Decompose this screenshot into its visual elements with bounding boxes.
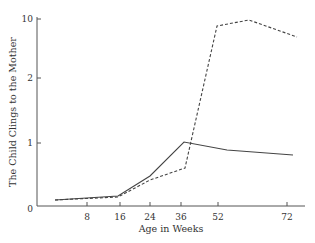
y-ticks [37,19,41,143]
y-tick-label: 0 [27,204,33,214]
x-tick-label: 8 [84,212,90,222]
y-axis-label: The Child Clings to the Mother [7,37,18,187]
x-tick-label: 24 [144,212,156,222]
y-tick-label: 2 [27,73,33,83]
x-tick-label: 52 [212,212,223,222]
y-tick-label: 1 [27,138,33,148]
y-tick-label: 10 [22,14,34,24]
series-dashed-line [55,20,297,200]
series-solid-line [55,142,293,200]
x-axis-label: Age in Weeks [138,223,204,234]
x-tick-label: 72 [281,212,292,222]
x-tick-label: 16 [114,212,126,222]
x-tick-label: 36 [175,212,187,222]
line-chart: 10 2 1 0 8 16 24 36 52 72 Age in Weeks T… [0,0,315,243]
x-ticks [87,202,287,206]
